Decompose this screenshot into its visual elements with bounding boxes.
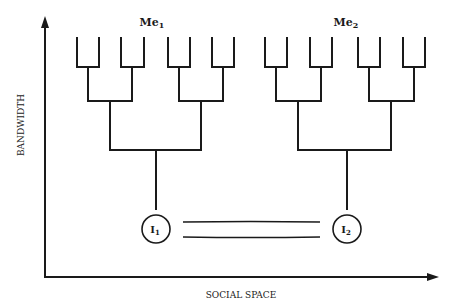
node-i2: I2 (333, 215, 361, 243)
node-i1: I1 (142, 215, 170, 243)
x-axis-arrow-icon (427, 273, 439, 281)
bandwidth-diagram: BANDWIDTH SOCIAL SPACE Me1 Me2 I1 I2 (0, 0, 451, 305)
tree-me2-label: Me2 (334, 16, 359, 30)
tree-me2: Me2 (265, 16, 425, 209)
node-i1-label: I1 (150, 224, 160, 237)
node-i2-label: I2 (341, 224, 351, 237)
connection-double-line (183, 222, 320, 238)
x-axis-label: SOCIAL SPACE (206, 290, 277, 300)
y-axis-arrow-icon (41, 16, 49, 28)
tree-me1-label: Me1 (140, 16, 165, 30)
tree-me1: Me1 (77, 16, 234, 209)
y-axis-label: BANDWIDTH (16, 94, 26, 156)
